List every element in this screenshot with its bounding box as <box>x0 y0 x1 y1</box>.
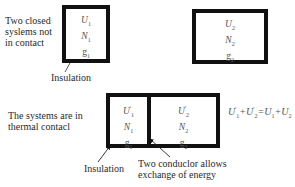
leader-lines <box>0 0 295 187</box>
top-insulation-leader <box>65 63 70 72</box>
conductor-arrow <box>150 139 170 157</box>
bottom-insulation-arrow <box>98 146 110 162</box>
